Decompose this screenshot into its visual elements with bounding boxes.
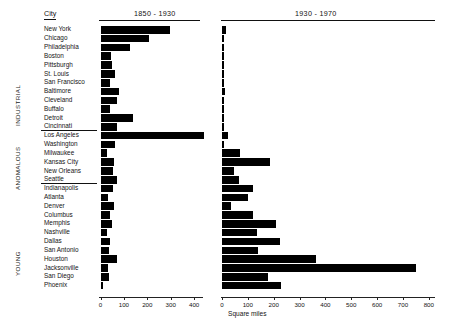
- axis-tick-label: 400: [313, 301, 337, 308]
- group-separator: [41, 183, 97, 184]
- bar-1930-1970: [222, 79, 224, 87]
- city-label: Phoenix: [44, 282, 67, 288]
- bar-1930-1970: [222, 149, 240, 157]
- axis-tick-label: 500: [339, 301, 363, 308]
- bar-1850-1930: [101, 97, 118, 105]
- city-label: Nashville: [44, 229, 70, 235]
- bar-1930-1970: [222, 88, 225, 96]
- axis-tick: [351, 297, 352, 300]
- city-label: Jacksonville: [44, 265, 78, 271]
- city-label: Dallas: [44, 238, 62, 244]
- city-label: St. Louis: [44, 71, 69, 77]
- city-label: Houston: [44, 256, 68, 262]
- city-label: Chicago: [44, 35, 67, 41]
- bar-1930-1970: [222, 35, 224, 43]
- city-label: New Orleans: [44, 168, 81, 174]
- bar-1850-1930: [101, 158, 115, 166]
- bar-1850-1930: [101, 52, 111, 60]
- bar-1930-1970: [222, 185, 253, 193]
- axis-tick-label: 100: [112, 301, 136, 308]
- bar-1930-1970: [222, 52, 224, 60]
- axis-tick-label: 300: [288, 301, 312, 308]
- bar-1930-1970: [222, 264, 416, 272]
- axis-tick-label: 200: [135, 301, 159, 308]
- bar-1930-1970: [222, 167, 234, 175]
- bar-1850-1930: [101, 79, 111, 87]
- bar-1930-1970: [222, 282, 281, 290]
- bar-1850-1930: [101, 44, 131, 52]
- axis-tick: [171, 297, 172, 300]
- bar-1850-1930: [101, 194, 109, 202]
- city-label: Los Angeles: [44, 132, 79, 138]
- bar-1850-1930: [101, 273, 109, 281]
- bar-1930-1970: [222, 255, 316, 263]
- group-separator: [41, 130, 97, 131]
- bar-1850-1930: [101, 132, 204, 140]
- bar-1930-1970: [222, 158, 270, 166]
- axis-tick: [429, 297, 430, 300]
- axis-tick: [274, 297, 275, 300]
- axis-tick: [101, 297, 102, 300]
- bar-1930-1970: [222, 26, 226, 34]
- bar-1850-1930: [101, 167, 113, 175]
- bar-1930-1970: [222, 194, 248, 202]
- bar-1930-1970: [222, 220, 276, 228]
- panel-rule-1850-1930: [99, 20, 200, 21]
- axis-tick-label: 0: [89, 301, 113, 308]
- city-label: Cincinnati: [44, 123, 72, 129]
- bar-1930-1970: [222, 202, 231, 210]
- bar-1850-1930: [101, 123, 118, 131]
- city-label: San Francisco: [44, 79, 85, 85]
- bar-1850-1930: [101, 105, 110, 113]
- axis-tick: [300, 297, 301, 300]
- axis-tick-label: 800: [417, 301, 441, 308]
- bar-1930-1970: [222, 123, 224, 131]
- axis-tick-label: 200: [262, 301, 286, 308]
- city-label: Kansas City: [44, 159, 78, 165]
- axis-tick-label: 100: [236, 301, 260, 308]
- panel-rule-1930-1970: [221, 20, 435, 21]
- bar-1930-1970: [222, 70, 224, 78]
- axis-tick-label: 0: [210, 301, 234, 308]
- city-label: Baltimore: [44, 88, 71, 94]
- city-label: Philadelphia: [44, 44, 79, 50]
- panel-header-1850-1930: 1850 - 1930: [134, 9, 176, 18]
- axis-tick: [222, 297, 223, 300]
- axis-tick: [194, 297, 195, 300]
- axis-tick-label: 300: [159, 301, 183, 308]
- axis-tick-label: 600: [365, 301, 389, 308]
- axis-tick: [325, 297, 326, 300]
- bar-1850-1930: [101, 185, 114, 193]
- city-land-area-chart: INDUSTRIAL ANOMALOUS YOUNG City 1850 - 1…: [0, 0, 456, 325]
- city-label: Memphis: [44, 220, 70, 226]
- bar-1850-1930: [101, 26, 171, 34]
- bar-1850-1930: [101, 61, 113, 69]
- axis-tick: [124, 297, 125, 300]
- bar-1930-1970: [222, 229, 257, 237]
- bar-1930-1970: [222, 61, 224, 69]
- axis-tick: [248, 297, 249, 300]
- bar-1850-1930: [101, 238, 111, 246]
- city-label: New York: [44, 26, 71, 32]
- bar-1930-1970: [222, 114, 224, 122]
- city-label: Columbus: [44, 212, 73, 218]
- group-label-anomalous: ANOMALOUS: [14, 146, 21, 190]
- bar-1930-1970: [222, 211, 253, 219]
- city-label: Boston: [44, 53, 64, 59]
- axis-tick-label: 400: [182, 301, 206, 308]
- bar-1850-1930: [101, 149, 107, 157]
- bar-1850-1930: [101, 114, 134, 122]
- axis-tick: [147, 297, 148, 300]
- bar-1930-1970: [222, 132, 228, 140]
- bar-1850-1930: [101, 88, 119, 96]
- city-label: Atlanta: [44, 194, 64, 200]
- bar-1930-1970: [222, 238, 280, 246]
- bar-1930-1970: [222, 105, 224, 113]
- bar-1930-1970: [222, 44, 224, 52]
- city-label: Seattle: [44, 176, 64, 182]
- bar-1850-1930: [101, 211, 110, 219]
- bar-1850-1930: [101, 255, 118, 263]
- bar-1850-1930: [101, 264, 108, 272]
- bar-1850-1930: [101, 70, 115, 78]
- bar-1850-1930: [101, 202, 115, 210]
